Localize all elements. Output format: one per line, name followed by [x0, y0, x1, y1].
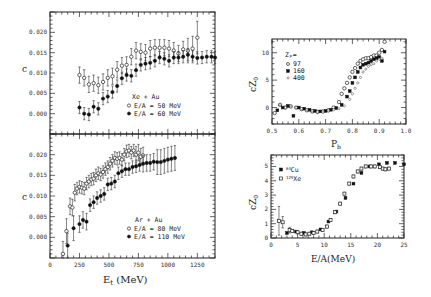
xe-au-series-2-point	[101, 97, 104, 100]
cz0-vs-pb-series-2-point	[335, 107, 338, 110]
xe-au-series-2-point	[167, 59, 170, 62]
ar-legend-label-80: E/A = 80 MeV	[134, 225, 181, 233]
xe-au-series-2-point	[97, 107, 100, 110]
cz0-vs-ea-series-2-point	[308, 232, 311, 235]
cz0-vs-pb-series-2-point	[351, 81, 354, 84]
cz0-vs-ea-series-2-point	[277, 219, 280, 222]
ar-au-series-1-point	[92, 177, 95, 180]
pb-legend-label-400: 400	[293, 74, 305, 82]
ar-au-series-2-point	[131, 165, 134, 168]
cz0-vs-ea-series-1-point	[360, 171, 363, 174]
cz0-vs-pb-series-2-point	[276, 109, 279, 112]
panel-xe-au: 0.0000.0050.0100.0150.020	[29, 12, 217, 134]
ea-y-axis-label: cZ0	[248, 195, 259, 210]
cz0-vs-pb-series-2-point	[308, 108, 311, 111]
cz0-vs-ea-series-2-point	[343, 192, 346, 195]
pb-legend-marker-400	[287, 77, 289, 79]
cz0-vs-ea-series-2-point	[281, 221, 284, 224]
cz0-vs-pb-series-3-point	[362, 71, 364, 73]
pb-y-axis-label: cZ0	[248, 77, 259, 92]
ar-au-series-2-point	[95, 196, 98, 199]
ar-au-series-2-point	[173, 156, 176, 159]
ar-au-series-2-point	[124, 167, 127, 170]
cz0-vs-ea-series-1-point	[286, 232, 289, 235]
xe-au-series-2-point	[210, 55, 213, 58]
xe-au-series-1-point	[92, 81, 95, 84]
xe-au-series-1-point	[163, 46, 166, 49]
ar-au-series-2-point	[141, 162, 144, 165]
xe-au-series-2-point	[82, 112, 85, 115]
cz0-vs-pb-series-2-point	[292, 114, 295, 117]
cz0-vs-ea-series-2-point	[329, 219, 332, 222]
cz0-vs-pb-series-2-point	[367, 61, 370, 64]
cz0-vs-pb-series-2-point	[340, 103, 343, 106]
ar-au-series-1-point	[132, 149, 135, 152]
cz0-vs-pb-series-3-point	[300, 108, 302, 110]
xe-au-series-2-point	[144, 62, 147, 65]
cz0-vs-ea-series-2-point	[333, 211, 336, 214]
cz0-vs-pb-series-3-point	[322, 111, 324, 113]
ea-legend-marker-xe	[280, 177, 283, 180]
ar-au-series-2-point	[117, 172, 120, 175]
cz0-vs-pb-series-3-point	[370, 64, 372, 66]
xe-au-series-2-point	[78, 106, 81, 109]
xe-au-series-1-point	[196, 36, 199, 39]
xe-legend: Xe + Au E/A = 50 MeV E/A = 60 MeV	[127, 93, 181, 118]
cz0-vs-ea-series-1-point	[386, 161, 389, 164]
cz0-vs-ea-series-2-point	[296, 231, 299, 234]
cz0-vs-pb-series-2-point	[313, 109, 316, 112]
xe-au-series-1-point	[115, 68, 118, 71]
xe-au-series-1-point	[167, 47, 170, 50]
cz0-vs-pb-series-3-point	[295, 106, 297, 108]
cz0-vs-ea-y-tick-label: 2	[264, 205, 268, 212]
ar-y-axis-label: c	[22, 192, 27, 202]
xe-au-series-2-point	[153, 59, 156, 62]
xe-au-series-1-point	[78, 73, 81, 76]
ar-au-series-2-point	[152, 160, 155, 163]
ar-au-series-1-point	[137, 151, 140, 154]
ea-y-axis-label-main: cZ	[248, 199, 258, 210]
cz0-vs-pb-series-3-point	[349, 98, 351, 100]
cz0-vs-ea-series-2-point	[312, 231, 315, 234]
xe-au-series-1-point	[125, 63, 128, 66]
ar-au-series-2-point	[120, 170, 123, 173]
xe-au-series-2-point	[139, 63, 142, 66]
cz0-vs-ea-series-1-point	[378, 163, 381, 166]
cz0-vs-pb-series-1-point	[353, 66, 356, 69]
cz0-vs-pb-x-tick-label: 0.8	[347, 127, 358, 134]
cz0-vs-pb-series-3-point	[284, 106, 286, 108]
xe-au-series-1-point	[158, 46, 161, 49]
cz0-vs-ea-series-2-point	[304, 233, 307, 236]
cz0-vs-ea-series-1-point	[403, 163, 406, 166]
cz0-vs-ea-series-2-point	[373, 165, 376, 168]
ar-au-series-2-point	[72, 227, 75, 230]
xe-au-series-2-point	[191, 55, 194, 58]
cz0-vs-pb-series-3-point	[333, 109, 335, 111]
ar-au-x-tick-label: 500	[104, 261, 115, 268]
cz0-vs-pb-series-1-point	[351, 70, 354, 73]
ea-y-axis-label-sub: 0	[252, 195, 259, 199]
ea-legend-xe-element: Xe	[293, 175, 301, 183]
cz0-vs-pb-series-2-point	[359, 66, 362, 69]
xe-au-y-tick-label: 0.010	[29, 69, 47, 76]
cz0-vs-pb-series-1-point	[345, 81, 348, 84]
xe-au-series-1-point	[148, 47, 151, 50]
xe-au-series-2-point	[181, 55, 184, 58]
cz0-vs-ea-series-1-point	[344, 197, 347, 200]
ar-legend-title: Ar + Au	[135, 216, 162, 224]
ar-au-series-2-point	[166, 158, 169, 161]
xe-au-y-tick-label: 0.015	[29, 49, 47, 56]
ea-legend-cu-element: Cu	[291, 166, 299, 174]
ar-au-y-tick-label: 0.020	[29, 151, 47, 158]
ar-au-series-2-point	[85, 220, 88, 223]
xe-au-series-2-point	[163, 57, 166, 60]
cz0-vs-pb-series-3-point	[378, 58, 380, 60]
cz0-vs-ea-y-tick-label: 0	[264, 234, 268, 241]
xe-au-series-1-point	[144, 51, 147, 54]
cz0-vs-pb-series-2-point	[380, 60, 383, 63]
xe-au-series-2-point	[213, 56, 216, 59]
ar-au-series-1-point	[101, 170, 104, 173]
ar-au-series-2-point	[113, 180, 116, 183]
ar-au-series-1-point	[106, 165, 109, 168]
ea-legend-label-xe: 129Xe	[286, 175, 301, 183]
